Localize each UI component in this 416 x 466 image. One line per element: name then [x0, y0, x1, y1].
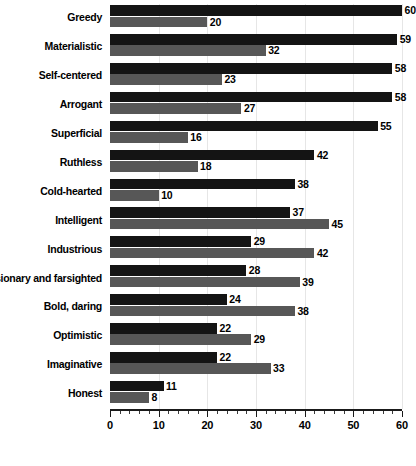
category-label: Superficial: [51, 127, 102, 139]
major-tick: [207, 411, 208, 417]
bar-value-label: 24: [229, 294, 240, 305]
bar-series-dark: 22: [110, 352, 217, 363]
plot-area: 6020593258235827551642183810374529422839…: [110, 4, 402, 409]
major-tick: [305, 411, 306, 417]
bar-series-dark: 59: [110, 34, 397, 45]
minor-tick: [383, 411, 384, 415]
bar-series-light: 42: [110, 248, 314, 259]
category-label: Honest: [68, 387, 102, 399]
category-label: Self-centered: [39, 69, 102, 81]
bar-value-label: 33: [273, 363, 284, 374]
bar-series-light: 38: [110, 306, 295, 317]
bar-value-label: 22: [220, 352, 231, 363]
category-label: Materialistic: [45, 40, 102, 52]
x-tick-label: 40: [299, 419, 311, 431]
minor-tick: [227, 411, 228, 415]
minor-tick: [344, 411, 345, 415]
minor-tick: [188, 411, 189, 415]
bar-series-dark: 58: [110, 92, 392, 103]
bar-group: 4218: [110, 149, 402, 178]
minor-tick: [178, 411, 179, 415]
bar-value-label: 55: [380, 121, 391, 132]
bar-value-label: 10: [161, 190, 172, 201]
x-tick-label: 50: [347, 419, 359, 431]
bar-group: 5823: [110, 62, 402, 91]
bar-group: 5516: [110, 120, 402, 149]
bar-series-dark: 29: [110, 236, 251, 247]
minor-tick: [217, 411, 218, 415]
minor-tick: [149, 411, 150, 415]
bar-series-dark: 58: [110, 63, 392, 74]
category-label: Greedy: [67, 11, 102, 23]
bar-value-label: 18: [200, 161, 211, 172]
bar-series-dark: 24: [110, 294, 227, 305]
major-tick: [402, 411, 403, 417]
bar-value-label: 38: [297, 179, 308, 190]
bar-group: 3810: [110, 177, 402, 206]
x-tick-label: 30: [250, 419, 262, 431]
bar-group: 2839: [110, 264, 402, 293]
bar-value-label: 60: [405, 5, 416, 16]
minor-tick: [373, 411, 374, 415]
category-label: Arrogant: [60, 98, 102, 110]
bar-value-label: 37: [293, 207, 304, 218]
bar-series-light: 23: [110, 74, 222, 85]
category-label: Cold-hearted: [40, 185, 102, 197]
minor-tick: [246, 411, 247, 415]
bar-value-label: 59: [400, 34, 411, 45]
category-label: Visionary and farsighted: [0, 272, 102, 284]
bar-value-label: 16: [190, 132, 201, 143]
bar-group: 5827: [110, 91, 402, 120]
category-label: Ruthless: [60, 156, 102, 168]
bar-value-label: 22: [220, 323, 231, 334]
category-label: Bold, daring: [44, 300, 102, 312]
bar-value-label: 42: [317, 248, 328, 259]
category-label: Intelligent: [55, 214, 102, 226]
category-axis-labels: GreedyMaterialisticSelf-centeredArrogant…: [0, 4, 110, 409]
minor-tick: [275, 411, 276, 415]
bar-series-light: 27: [110, 103, 241, 114]
bar-value-label: 32: [268, 45, 279, 56]
bar-series-dark: 55: [110, 121, 378, 132]
bar-value-label: 8: [151, 392, 157, 403]
major-tick: [256, 411, 257, 417]
bar-value-label: 58: [395, 63, 406, 74]
bar-group: 2438: [110, 293, 402, 322]
bar-series-dark: 11: [110, 381, 164, 392]
category-label: Optimistic: [53, 329, 102, 341]
bar-series-light: 33: [110, 363, 271, 374]
minor-tick: [198, 411, 199, 415]
bar-series-light: 32: [110, 45, 266, 56]
bar-group: 2229: [110, 322, 402, 351]
major-tick: [353, 411, 354, 417]
bar-series-light: 18: [110, 161, 198, 172]
minor-tick: [120, 411, 121, 415]
bar-value-label: 38: [297, 306, 308, 317]
bar-value-label: 28: [249, 265, 260, 276]
x-tick-label: 10: [153, 419, 165, 431]
bar-value-label: 58: [395, 92, 406, 103]
bar-series-light: 10: [110, 190, 159, 201]
bar-value-label: 39: [302, 277, 313, 288]
minor-tick: [392, 411, 393, 415]
bar-group: 2233: [110, 351, 402, 380]
bar-group: 2942: [110, 235, 402, 264]
bar-value-label: 23: [224, 74, 235, 85]
bar-series-light: 8: [110, 392, 149, 403]
category-label: Industrious: [48, 243, 102, 255]
bar-series-dark: 38: [110, 179, 295, 190]
bar-value-label: 11: [166, 381, 177, 392]
bar-value-label: 45: [332, 219, 343, 230]
bar-group: 118: [110, 380, 402, 409]
bar-series-dark: 37: [110, 207, 290, 218]
bar-group: 5932: [110, 33, 402, 62]
minor-tick: [168, 411, 169, 415]
minor-tick: [334, 411, 335, 415]
bar-group: 6020: [110, 4, 402, 33]
category-label: Imaginative: [47, 358, 102, 370]
bar-series-dark: 28: [110, 265, 246, 276]
minor-tick: [363, 411, 364, 415]
bar-series-light: 29: [110, 334, 251, 345]
minor-tick: [324, 411, 325, 415]
minor-tick: [139, 411, 140, 415]
